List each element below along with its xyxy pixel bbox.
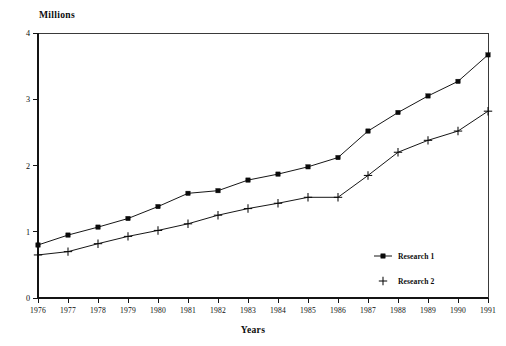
y-tick-label-3: 3 — [26, 95, 30, 104]
line-chart: 01234 1976197719781979198019811982198319… — [0, 0, 506, 346]
x-tick-label-1985: 1985 — [300, 306, 316, 315]
series-1-point-1990-square-marker — [456, 79, 460, 83]
legend-label-2: Research 2 — [398, 277, 435, 286]
series-1-point-1991-square-marker — [486, 53, 490, 57]
y-tick-label-2: 2 — [26, 162, 30, 171]
series-1-point-1986-square-marker — [336, 155, 340, 159]
chart-background — [0, 0, 506, 346]
series-1-point-1989-square-marker — [426, 94, 430, 98]
legend-label-1: Research 1 — [398, 252, 435, 261]
series-1-point-1982-square-marker — [216, 188, 220, 192]
y-axis-title: Millions — [39, 9, 75, 20]
x-tick-label-1983: 1983 — [240, 306, 256, 315]
x-tick-label-1988: 1988 — [390, 306, 406, 315]
series-1-point-1976-square-marker — [36, 243, 40, 247]
y-tick-label-1: 1 — [26, 228, 30, 237]
series-1-point-1985-square-marker — [306, 165, 310, 169]
x-tick-label-1980: 1980 — [150, 306, 166, 315]
series-1-point-1978-square-marker — [96, 225, 100, 229]
x-tick-label-1989: 1989 — [420, 306, 436, 315]
x-tick-label-1990: 1990 — [450, 306, 466, 315]
y-tick-label-4: 4 — [26, 29, 30, 38]
x-tick-label-1977: 1977 — [60, 306, 76, 315]
series-1-point-1983-square-marker — [246, 178, 250, 182]
series-1-point-1977-square-marker — [66, 233, 70, 237]
series-1-point-1988-square-marker — [396, 110, 400, 114]
legend-1-square-marker — [381, 254, 385, 258]
series-1-point-1987-square-marker — [366, 129, 370, 133]
x-tick-label-1976: 1976 — [30, 306, 46, 315]
x-tick-label-1981: 1981 — [180, 306, 196, 315]
series-1-point-1981-square-marker — [186, 191, 190, 195]
series-1-point-1984-square-marker — [276, 172, 280, 176]
x-tick-label-1982: 1982 — [210, 306, 226, 315]
series-1-point-1979-square-marker — [126, 216, 130, 220]
x-tick-label-1984: 1984 — [270, 306, 286, 315]
chart-container: 01234 1976197719781979198019811982198319… — [0, 0, 506, 346]
x-tick-label-1987: 1987 — [360, 306, 376, 315]
x-axis-title: Years — [241, 324, 265, 335]
x-tick-label-1978: 1978 — [90, 306, 106, 315]
series-1-point-1980-square-marker — [156, 204, 160, 208]
x-tick-label-1991: 1991 — [480, 306, 496, 315]
y-tick-label-0: 0 — [26, 294, 30, 303]
x-tick-label-1986: 1986 — [330, 306, 346, 315]
x-tick-label-1979: 1979 — [120, 306, 136, 315]
